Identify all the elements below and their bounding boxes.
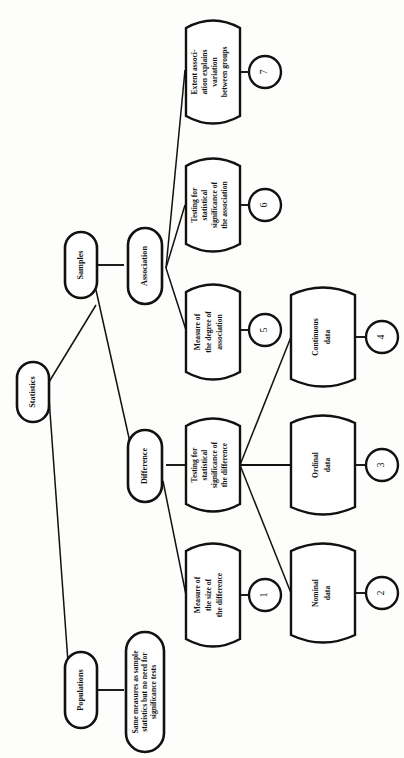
node-pop-note-line-1: statistics but no need for bbox=[140, 652, 149, 732]
svg-text:the association: the association bbox=[220, 180, 229, 228]
node-test-diff-line-3: the difference bbox=[220, 442, 229, 487]
marker-7[interactable]: 7 bbox=[249, 56, 281, 88]
marker-3-label: 3 bbox=[375, 463, 386, 468]
svg-text:statistics but no need for: statistics but no need for bbox=[140, 652, 149, 732]
svg-text:statistical: statistical bbox=[200, 450, 209, 481]
node-pop-note-line-2: significance tests bbox=[149, 665, 158, 719]
marker-4[interactable]: 4 bbox=[366, 321, 398, 353]
marker-6[interactable]: 6 bbox=[249, 189, 281, 221]
node-degree-assoc[interactable]: Measure of the degree of association bbox=[186, 285, 240, 380]
node-extent-assoc-line-0: Extent associ- bbox=[190, 49, 199, 94]
svg-text:4: 4 bbox=[375, 335, 386, 340]
node-size-diff-line-2: the difference bbox=[215, 572, 224, 617]
edge-statistics-populations bbox=[49, 398, 70, 690]
svg-text:the size of: the size of bbox=[204, 579, 213, 612]
svg-text:5: 5 bbox=[258, 328, 269, 333]
svg-text:2: 2 bbox=[375, 591, 386, 596]
marker-5-label: 5 bbox=[258, 328, 269, 333]
node-test-diff-line-0: Testing for bbox=[190, 447, 199, 483]
svg-text:data: data bbox=[323, 458, 332, 473]
svg-text:ation explains: ation explains bbox=[200, 49, 209, 94]
node-difference[interactable]: Difference bbox=[128, 430, 162, 502]
svg-text:3: 3 bbox=[375, 463, 386, 468]
marker-2[interactable]: 2 bbox=[366, 577, 398, 609]
svg-text:Ordinal: Ordinal bbox=[311, 452, 320, 478]
marker-1-label: 1 bbox=[258, 593, 269, 598]
node-statistics[interactable]: Statistics bbox=[17, 362, 49, 422]
node-statistics-line-0: Statistics bbox=[28, 376, 37, 407]
node-samples-line-0: Samples bbox=[76, 250, 85, 279]
node-extent-assoc-line-1: ation explains bbox=[200, 49, 209, 94]
node-nominal[interactable]: Nominal data bbox=[291, 544, 355, 643]
node-populations-line-0: Populations bbox=[76, 669, 85, 710]
node-continuous-line-1: data bbox=[323, 330, 332, 345]
node-samples[interactable]: Samples bbox=[65, 232, 97, 298]
node-pop-note-line-0: Same measures as sample bbox=[131, 650, 140, 734]
marker-1[interactable]: 1 bbox=[249, 579, 281, 611]
node-continuous-line-0: Continuous bbox=[311, 318, 320, 356]
node-populations[interactable]: Populations bbox=[65, 652, 97, 728]
svg-text:7: 7 bbox=[258, 70, 269, 75]
svg-text:variation: variation bbox=[210, 56, 219, 86]
node-association[interactable]: Association bbox=[128, 228, 162, 304]
node-difference-line-0: Difference bbox=[140, 448, 149, 485]
node-association-line-0: Association bbox=[140, 246, 149, 286]
node-test-assoc-line-3: the association bbox=[220, 180, 229, 228]
svg-text:association: association bbox=[215, 314, 224, 350]
node-ordinal[interactable]: Ordinal data bbox=[291, 416, 355, 515]
node-degree-assoc-line-1: the degree of bbox=[204, 311, 213, 353]
svg-text:the difference: the difference bbox=[220, 442, 229, 487]
edge-association-degree bbox=[166, 268, 186, 330]
svg-text:Measure of: Measure of bbox=[193, 576, 202, 613]
marker-5[interactable]: 5 bbox=[249, 314, 281, 346]
svg-text:Populations: Populations bbox=[76, 669, 85, 710]
svg-text:Testing for: Testing for bbox=[190, 447, 199, 483]
node-continuous[interactable]: Continuous data bbox=[291, 288, 355, 387]
node-ordinal-line-0: Ordinal bbox=[311, 452, 320, 478]
edge-samples-difference bbox=[96, 290, 131, 447]
svg-text:between groups: between groups bbox=[220, 47, 229, 98]
node-extent-assoc-line-2: variation bbox=[210, 56, 219, 86]
svg-text:Nominal: Nominal bbox=[311, 579, 320, 607]
edge-difference-size-diff bbox=[163, 481, 186, 595]
edge-testdiff-continuous bbox=[240, 337, 291, 465]
node-size-diff-line-0: Measure of bbox=[193, 576, 202, 613]
node-extent-assoc[interactable]: Extent associ- ation explains variation … bbox=[186, 21, 240, 124]
svg-text:1: 1 bbox=[258, 593, 269, 598]
svg-text:Statistics: Statistics bbox=[28, 376, 37, 407]
marker-3[interactable]: 3 bbox=[366, 449, 398, 481]
svg-text:the difference: the difference bbox=[215, 572, 224, 617]
svg-text:Extent associ-: Extent associ- bbox=[190, 49, 199, 94]
node-test-assoc-line-1: statistical bbox=[200, 190, 209, 221]
edge-statistics-samples bbox=[49, 305, 96, 382]
node-test-assoc[interactable]: Testing for statistical significance of … bbox=[186, 159, 240, 252]
svg-text:Same measures as sample: Same measures as sample bbox=[131, 650, 140, 734]
node-size-diff[interactable]: Measure of the size of the difference bbox=[186, 544, 240, 647]
svg-text:Samples: Samples bbox=[76, 250, 85, 279]
marker-7-label: 7 bbox=[258, 70, 269, 75]
node-nominal-line-1: data bbox=[323, 586, 332, 601]
node-test-assoc-line-2: significance of bbox=[210, 181, 219, 228]
node-test-diff-line-1: statistical bbox=[200, 450, 209, 481]
node-extent-assoc-line-3: between groups bbox=[220, 47, 229, 98]
svg-text:Testing for: Testing for bbox=[190, 187, 199, 223]
marker-6-label: 6 bbox=[258, 203, 269, 208]
svg-text:the degree of: the degree of bbox=[204, 311, 213, 353]
node-ordinal-line-1: data bbox=[323, 458, 332, 473]
node-test-diff[interactable]: Testing for statistical significance of … bbox=[186, 419, 240, 512]
svg-text:Association: Association bbox=[140, 246, 149, 286]
svg-text:significance of: significance of bbox=[210, 181, 219, 228]
svg-text:data: data bbox=[323, 330, 332, 345]
node-pop-note[interactable]: Same measures as sample statistics but n… bbox=[126, 632, 164, 752]
svg-text:statistical: statistical bbox=[200, 190, 209, 221]
node-nominal-line-0: Nominal bbox=[311, 579, 320, 607]
node-test-diff-line-2: significance of bbox=[210, 441, 219, 488]
marker-2-label: 2 bbox=[375, 591, 386, 596]
svg-text:significance tests: significance tests bbox=[149, 665, 158, 719]
svg-text:6: 6 bbox=[258, 203, 269, 208]
node-test-assoc-line-0: Testing for bbox=[190, 187, 199, 223]
svg-text:Difference: Difference bbox=[140, 448, 149, 485]
marker-4-label: 4 bbox=[375, 335, 386, 340]
diagram-canvas: Statistics Samples Populations Associati… bbox=[0, 0, 404, 758]
edge-testdiff-nominal bbox=[240, 465, 291, 593]
